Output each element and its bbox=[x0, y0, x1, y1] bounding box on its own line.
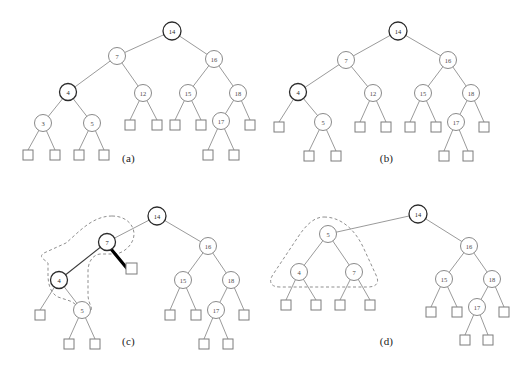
node-17-label: 17 bbox=[218, 118, 225, 125]
node-17-label: 17 bbox=[474, 304, 481, 311]
panel-c: 14 7 16 4 15 18 5 17 (c) bbox=[0, 183, 257, 365]
node-16-label: 16 bbox=[211, 56, 218, 63]
node-5-label: 5 bbox=[326, 231, 329, 238]
node-14-label: 14 bbox=[395, 28, 402, 35]
node-15-label: 15 bbox=[441, 276, 448, 283]
node-12-label: 12 bbox=[140, 90, 147, 97]
panel-d: 14 5 16 4 7 15 18 17 (d) bbox=[258, 183, 515, 365]
nodes-panel-d: 14 5 16 4 7 15 18 17 bbox=[291, 205, 501, 316]
node-17-label: 17 bbox=[453, 119, 460, 126]
node-16-label: 16 bbox=[205, 243, 212, 250]
node-14-label: 14 bbox=[169, 28, 176, 35]
node-18-label: 18 bbox=[468, 90, 475, 97]
node-12-label: 12 bbox=[370, 90, 377, 97]
panel-a-caption: (a) bbox=[0, 152, 257, 164]
edges-panel-d bbox=[286, 214, 504, 335]
node-5-label: 5 bbox=[80, 307, 83, 314]
node-17-label: 17 bbox=[213, 307, 220, 314]
node-3-label: 3 bbox=[41, 120, 44, 127]
node-14-label: 14 bbox=[154, 213, 161, 220]
node-18-label: 18 bbox=[228, 277, 235, 284]
nodes-panel-c: 14 7 16 4 15 18 5 17 bbox=[51, 207, 240, 319]
figure-binary-search-tree-panels: 14 7 16 4 12 15 18 3 5 17 bbox=[0, 0, 515, 365]
nodes-panel-a: 14 7 16 4 12 15 18 3 5 17 bbox=[35, 22, 247, 132]
node-5-label: 5 bbox=[321, 119, 324, 126]
node-14-label: 14 bbox=[415, 211, 422, 218]
node-15-label: 15 bbox=[185, 90, 192, 97]
edges-panel-c bbox=[40, 216, 244, 339]
node-16-label: 16 bbox=[466, 243, 473, 250]
dashed-region-c bbox=[41, 216, 134, 311]
panel-a: 14 7 16 4 12 15 18 3 5 17 bbox=[0, 0, 257, 182]
panel-d-caption: (d) bbox=[258, 335, 515, 347]
node-15-label: 15 bbox=[180, 277, 187, 284]
node-5-label: 5 bbox=[90, 120, 93, 127]
panel-b-caption: (b) bbox=[258, 152, 515, 164]
node-15-label: 15 bbox=[420, 90, 427, 97]
panel-c-caption: (c) bbox=[0, 335, 257, 347]
panel-b: 14 7 16 4 12 15 18 5 17 (b) bbox=[258, 0, 515, 182]
node-18-label: 18 bbox=[235, 90, 242, 97]
leaf-highlighted bbox=[126, 263, 137, 274]
node-18-label: 18 bbox=[489, 276, 496, 283]
node-16-label: 16 bbox=[445, 57, 452, 64]
